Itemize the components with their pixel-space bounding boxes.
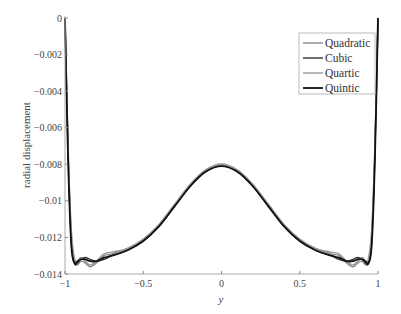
legend-label-cubic: Cubic xyxy=(325,52,352,64)
y-tick-label: −0.004 xyxy=(34,86,62,97)
legend-label-quintic: Quintic xyxy=(325,82,360,94)
legend: QuadraticCubicQuarticQuintic xyxy=(299,33,375,94)
y-tick-label: −0.014 xyxy=(34,269,62,280)
y-axis-label: radial displacement xyxy=(20,102,32,188)
y-tick-label: 0 xyxy=(57,13,62,24)
y-tick-label: −0.012 xyxy=(34,232,62,243)
y-tick-label: −0.01 xyxy=(39,195,62,206)
legend-label-quadratic: Quadratic xyxy=(325,37,370,49)
x-tick-label: 0.5 xyxy=(294,278,307,289)
x-tick-label: 0 xyxy=(219,278,224,289)
x-axis-label: y xyxy=(218,293,224,305)
legend-label-quartic: Quartic xyxy=(325,67,359,79)
line-chart: 0−0.002−0.004−0.006−0.008−0.01−0.012−0.0… xyxy=(0,0,401,314)
x-tick-label: −1 xyxy=(60,278,71,289)
y-ticks: 0−0.002−0.004−0.006−0.008−0.01−0.012−0.0… xyxy=(34,13,68,280)
x-tick-label: −0.5 xyxy=(134,278,152,289)
y-tick-label: −0.002 xyxy=(34,49,62,60)
x-tick-label: 1 xyxy=(376,278,381,289)
y-tick-label: −0.008 xyxy=(34,159,62,170)
y-tick-label: −0.006 xyxy=(34,122,62,133)
